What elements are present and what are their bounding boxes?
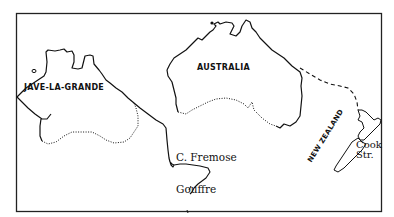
label-cook-strait-line2: Str.: [356, 150, 382, 160]
jave-southern-limit: [42, 103, 138, 144]
label-cape-fremose: C. Fremose: [176, 152, 237, 163]
australia-coastline: [167, 20, 302, 128]
label-jave-la-grande: JAVE-LA-GRANDE: [24, 84, 104, 92]
label-cook-strait: Cook Str.: [356, 140, 382, 160]
map-figure: JAVE-LA-GRANDE AUSTRALIA C. Fremose Gouf…: [0, 0, 394, 217]
jave-west-coast: [17, 97, 51, 141]
small-island-north: [210, 21, 213, 24]
new-zealand-north-island: [358, 110, 381, 140]
map-frame: [17, 14, 382, 212]
label-australia: AUSTRALIA: [197, 64, 250, 72]
label-gouffre: Gouffre: [176, 184, 216, 195]
australia-west-coast: [167, 70, 178, 112]
small-island: [32, 69, 36, 72]
jave-la-grande-coastline: [17, 49, 170, 162]
australia-southern-limit: [178, 98, 276, 126]
route-to-new-zealand: [300, 68, 358, 110]
